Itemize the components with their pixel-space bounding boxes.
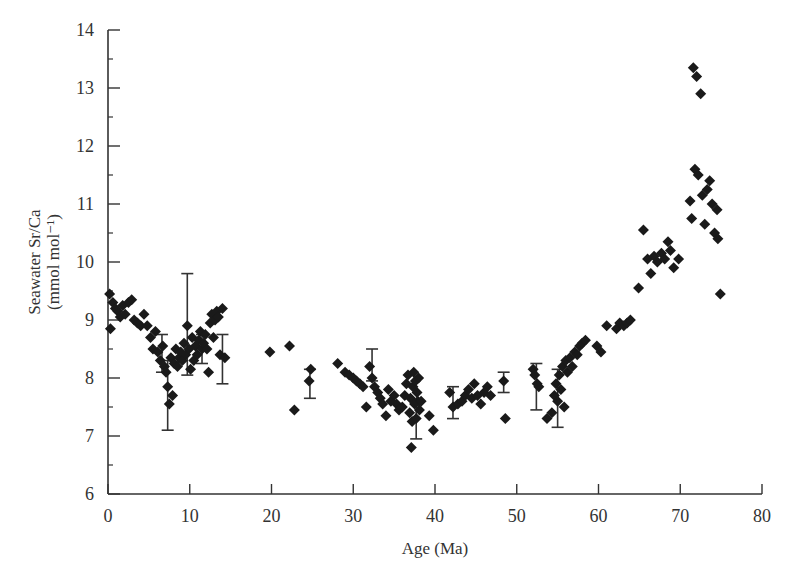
diamond-marker <box>633 283 644 294</box>
diamond-marker <box>428 425 439 436</box>
diamond-marker <box>105 323 116 334</box>
diamond-marker <box>704 175 715 186</box>
diamond-marker <box>138 309 149 320</box>
diamond-marker <box>304 375 315 386</box>
x-axis-title: Age (Ma) <box>402 539 469 558</box>
diamond-marker <box>715 288 726 299</box>
diamond-marker <box>498 375 509 386</box>
data-points <box>104 62 726 453</box>
x-tick-label: 60 <box>590 506 608 526</box>
x-tick-label: 80 <box>753 506 771 526</box>
diamond-marker <box>142 320 153 331</box>
x-tick-label: 50 <box>508 506 526 526</box>
y-tick-labels: 67891011121314 <box>76 20 94 504</box>
x-tick-label: 20 <box>263 506 281 526</box>
diamond-marker <box>686 213 697 224</box>
diamond-marker <box>203 367 214 378</box>
diamond-marker <box>424 410 435 421</box>
diamond-marker <box>305 364 316 375</box>
diamond-marker <box>162 381 173 392</box>
diamond-marker <box>685 196 696 207</box>
diamond-marker <box>673 254 684 265</box>
diamond-marker <box>695 88 706 99</box>
diamond-marker <box>367 373 378 384</box>
diamond-marker <box>332 358 343 369</box>
x-tick-label: 10 <box>181 506 199 526</box>
y-tick-label: 10 <box>76 252 94 272</box>
x-tick-labels: 01020304050607080 <box>104 506 772 526</box>
diamond-marker <box>361 402 372 413</box>
diamond-marker <box>665 245 676 256</box>
diamond-marker <box>645 268 656 279</box>
diamond-marker <box>699 219 710 230</box>
x-tick-label: 30 <box>344 506 362 526</box>
y-tick-label: 8 <box>85 368 94 388</box>
y-tick-label: 7 <box>85 426 94 446</box>
y-tick-label: 9 <box>85 310 94 330</box>
diamond-marker <box>284 341 295 352</box>
x-tick-label: 70 <box>671 506 689 526</box>
y-tick-label: 14 <box>76 20 94 40</box>
diamond-marker <box>182 320 193 331</box>
y-tick-label: 13 <box>76 78 94 98</box>
x-tick-label: 40 <box>426 506 444 526</box>
y-tick-label: 12 <box>76 136 94 156</box>
diamond-marker <box>500 413 511 424</box>
diamond-marker <box>668 262 679 273</box>
y-axis-title-line1: Seawater Sr/Ca <box>25 209 44 315</box>
y-tick-label: 6 <box>85 484 94 504</box>
diamond-marker <box>264 346 275 357</box>
diamond-marker <box>662 236 673 247</box>
diamond-marker <box>406 442 417 453</box>
diamond-marker <box>638 225 649 236</box>
diamond-marker <box>601 320 612 331</box>
y-tick-label: 11 <box>77 194 94 214</box>
diamond-marker <box>364 361 375 372</box>
diamond-marker <box>380 410 391 421</box>
x-tick-label: 0 <box>104 506 113 526</box>
scatter-chart: 01020304050607080 67891011121314 Age (Ma… <box>0 0 785 584</box>
diamond-marker <box>289 404 300 415</box>
y-axis-title-line2: (mmol mol⁻¹) <box>44 214 63 310</box>
